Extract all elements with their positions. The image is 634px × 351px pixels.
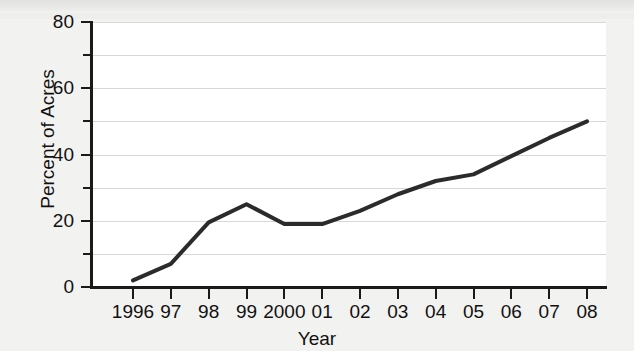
x-axis-line (90, 286, 607, 289)
x-tick-01 (321, 289, 323, 299)
y-tick-20 (81, 220, 90, 222)
x-tick-97 (170, 289, 172, 299)
x-tick-label-97: 97 (160, 302, 181, 321)
x-tick-98 (208, 289, 210, 299)
x-axis-title: Year (0, 328, 634, 350)
x-tick-label-06: 06 (501, 302, 522, 321)
y-tick-40 (81, 154, 90, 156)
y-tick-0 (81, 286, 90, 288)
x-tick-label-2000: 2000 (263, 302, 305, 321)
y-tick-70 (83, 54, 90, 56)
scan-edge-band (0, 0, 634, 13)
y-tick-30 (83, 187, 90, 189)
x-tick-label-08: 08 (576, 302, 597, 321)
x-tick-02 (359, 289, 361, 299)
chart-figure: 806040200 199697989920000102030405060708… (0, 0, 634, 351)
x-tick-06 (510, 289, 512, 299)
x-tick-2000 (283, 289, 285, 299)
series-line-0 (133, 121, 587, 280)
x-tick-07 (548, 289, 550, 299)
scan-edge-band-lower (0, 13, 634, 19)
data-series-layer (92, 22, 606, 287)
y-tick-60 (81, 87, 90, 89)
y-axis-line (90, 21, 93, 288)
y-tick-80 (81, 21, 90, 23)
x-tick-label-98: 98 (198, 302, 219, 321)
x-tick-label-02: 02 (349, 302, 370, 321)
x-tick-03 (397, 289, 399, 299)
x-tick-08 (586, 289, 588, 299)
x-tick-label-01: 01 (312, 302, 333, 321)
x-tick-label-07: 07 (539, 302, 560, 321)
x-tick-label-99: 99 (236, 302, 257, 321)
y-tick-label-0: 0 (24, 277, 74, 296)
x-tick-05 (473, 289, 475, 299)
x-tick-99 (246, 289, 248, 299)
y-tick-50 (83, 120, 90, 122)
y-axis-title: Percent of Acres (37, 19, 59, 259)
x-tick-label-04: 04 (425, 302, 446, 321)
x-tick-04 (435, 289, 437, 299)
plot-area (92, 22, 606, 287)
x-tick-label-1996: 1996 (112, 302, 154, 321)
y-tick-10 (83, 253, 90, 255)
x-tick-1996 (132, 289, 134, 299)
x-tick-label-03: 03 (387, 302, 408, 321)
x-tick-label-05: 05 (463, 302, 484, 321)
